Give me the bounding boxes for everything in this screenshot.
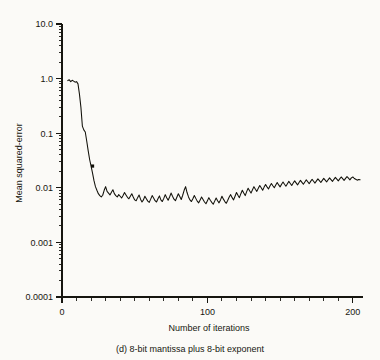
x-tick-label: 200 <box>345 307 360 317</box>
x-axis-title: Number of iterations <box>168 323 250 333</box>
y-axis-title: Mean squared-error <box>14 123 24 203</box>
curve-marker-dot <box>91 164 94 167</box>
x-tick-label: 0 <box>59 307 64 317</box>
y-tick-label: 0.1 <box>40 129 53 139</box>
y-tick-label: 0.0001 <box>25 292 53 302</box>
y-tick-label: 0.01 <box>35 183 53 193</box>
figure-caption: (d) 8-bit mantissa plus 8-bit exponent <box>116 344 265 354</box>
semilog-plot: 10.01.00.10.010.0010.0001 0100200 Mean s… <box>0 0 380 360</box>
curve-marker-group <box>91 164 94 167</box>
figure-container: 10.01.00.10.010.0010.0001 0100200 Mean s… <box>0 0 380 360</box>
x-tick-label: 100 <box>200 307 215 317</box>
y-tick-label: 0.001 <box>30 238 53 248</box>
y-tick-label: 1.0 <box>40 74 53 84</box>
y-tick-label: 10.0 <box>35 19 53 29</box>
